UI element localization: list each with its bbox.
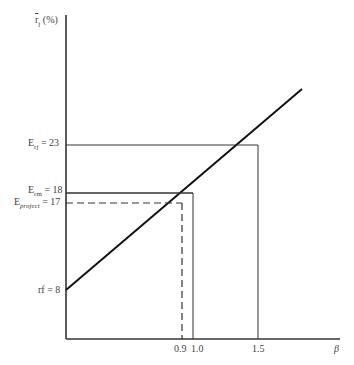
eproject-label: Eproject = 17 xyxy=(14,196,60,210)
sml-line xyxy=(66,89,302,290)
eproj-sub: project xyxy=(20,202,40,210)
erj-sub: rj xyxy=(34,143,38,151)
ylabel-unit: (%) xyxy=(43,14,58,25)
x-tick-1-0: 1.0 xyxy=(191,343,204,354)
x-tick-1-5: 1.5 xyxy=(252,343,265,354)
erm-val: = 18 xyxy=(44,184,62,195)
erj-label: Erj = 23 xyxy=(28,137,59,151)
ylabel-sub: j xyxy=(38,20,40,28)
x-tick-0-9: 0.9 xyxy=(174,343,187,354)
sml-chart xyxy=(0,0,354,365)
eproj-val: = 17 xyxy=(42,196,60,207)
x-axis-label-beta: β xyxy=(334,343,339,354)
erj-val: = 23 xyxy=(41,137,59,148)
y-axis-label: rj (%) xyxy=(35,14,58,28)
rf-label: rf = 8 xyxy=(38,284,60,295)
